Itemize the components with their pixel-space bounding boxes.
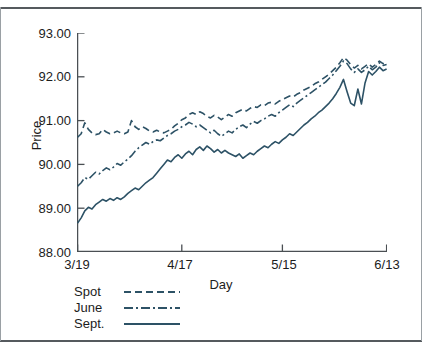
legend-item-june: June (74, 300, 181, 316)
y-tick-label: 91.00 (17, 114, 71, 127)
legend-swatch-sept (123, 319, 181, 329)
series-line-sept (78, 67, 387, 223)
legend-item-spot: Spot (74, 284, 181, 300)
x-tick-label: 4/17 (150, 258, 210, 271)
figure-left-border (0, 7, 1, 341)
x-tick-label: 3/19 (47, 258, 107, 271)
x-tick-label: 6/13 (357, 258, 417, 271)
chart-figure: 93.00 92.00 91.00 90.00 89.00 88.00 3/19… (0, 0, 422, 350)
figure-top-border (0, 7, 422, 9)
y-tick-label: 89.00 (17, 202, 71, 215)
x-tick-label: 5/15 (254, 258, 314, 271)
figure-bottom-border (0, 340, 422, 342)
y-tick-label: 90.00 (17, 158, 71, 171)
x-axis-title: Day (181, 277, 261, 292)
legend-label: Spot (74, 284, 118, 300)
series-line-june (78, 61, 387, 186)
legend-label: Sept. (74, 316, 118, 332)
y-tick-label: 92.00 (17, 70, 71, 83)
y-tick-label: 93.00 (17, 27, 71, 40)
legend-swatch-spot (123, 287, 181, 297)
series-line-spot (78, 58, 387, 138)
plot-svg (77, 33, 387, 252)
plot-area (77, 33, 387, 252)
y-axis-title: Price (29, 96, 44, 176)
x-tick-marks (78, 245, 387, 252)
legend-label: June (74, 300, 118, 316)
legend-item-sept: Sept. (74, 316, 181, 332)
chart-legend: Spot June Sept. (74, 284, 181, 332)
series-group (78, 58, 387, 224)
legend-swatch-june (123, 303, 181, 313)
